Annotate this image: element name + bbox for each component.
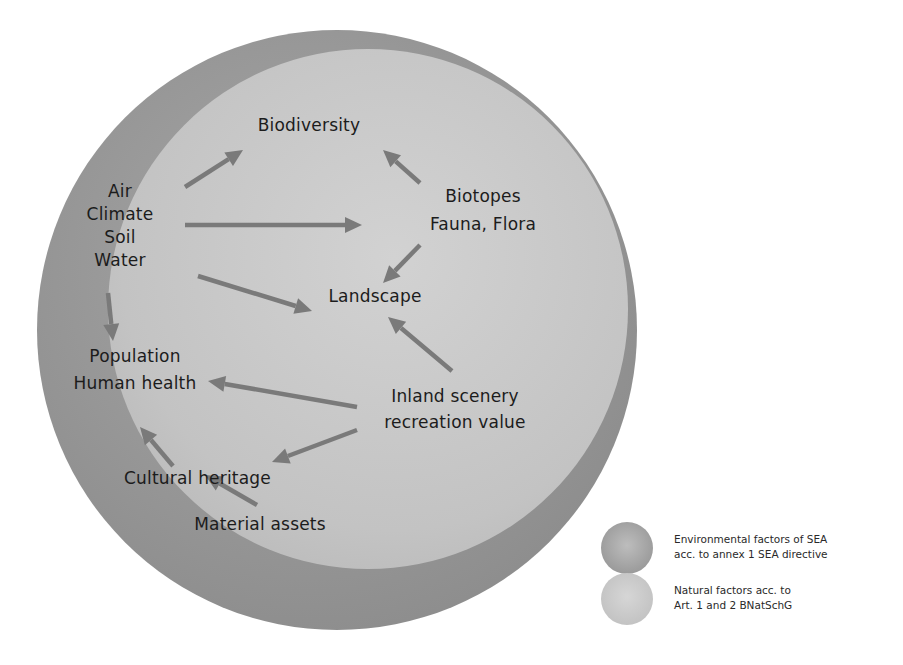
node-population-human-health: Population Human health (60, 343, 210, 397)
node-material-assets: Material assets (175, 513, 345, 535)
node-landscape: Landscape (320, 285, 430, 307)
legend-label-natural: Natural factors acc. to Art. 1 and 2 BNa… (674, 583, 792, 613)
node-biodiversity: Biodiversity (244, 114, 374, 136)
legend-label-environmental: Environmental factors of SEA acc. to ann… (674, 532, 828, 562)
legend-item-environmental-factors: Environmental factors of SEA acc. to ann… (600, 522, 900, 574)
legend-swatch-natural (601, 573, 653, 625)
legend-swatch-environmental (601, 522, 653, 574)
node-abiotic-factors: Air Climate Soil Water (70, 180, 170, 272)
node-biotopes-fauna-flora: Biotopes Fauna, Flora (408, 182, 558, 238)
node-cultural-heritage: Cultural heritage (100, 467, 295, 489)
node-inland-scenery-recreation-value: Inland scenery recreation value (355, 383, 555, 435)
legend-item-natural-factors: Natural factors acc. to Art. 1 and 2 BNa… (600, 573, 900, 625)
